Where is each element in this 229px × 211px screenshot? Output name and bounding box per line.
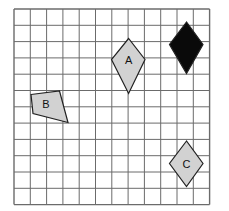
shape-black-kite [170,22,204,74]
shape-c-label: C [183,158,191,170]
figure-canvas: ABC [0,0,229,211]
shape-a [112,39,146,94]
grid-figure: ABC [0,0,229,211]
shape-b-label: B [42,98,49,110]
shape-a-label: A [125,54,133,66]
